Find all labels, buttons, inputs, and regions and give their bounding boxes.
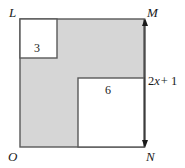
vertex-label-L: L [9, 6, 16, 19]
small-square-side-label: 3 [34, 42, 40, 54]
vertex-label-M: M [147, 6, 158, 19]
side-length-expression: 2x + 1 [148, 75, 177, 88]
vertex-label-O: O [8, 150, 17, 163]
expr-variable: x [154, 74, 160, 88]
vertex-label-N: N [146, 150, 155, 163]
expr-suffix: + 1 [161, 74, 177, 88]
geometry-figure: L M O N 3 6 2x + 1 [0, 0, 185, 168]
large-square-side-label: 6 [105, 84, 111, 96]
large-white-square [78, 78, 144, 147]
